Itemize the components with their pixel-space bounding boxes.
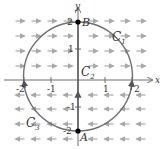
curve-c1-label: C1 <box>112 30 126 46</box>
vector-field-diagram: y x 2 1 -1 -2 -2 -1 1 2 B A C1 C2 C3 <box>0 0 164 149</box>
y-tick-1: 1 <box>68 44 74 54</box>
curve-c3 <box>24 22 78 131</box>
point-a-label: A <box>79 131 88 144</box>
x-tick-neg2: -2 <box>16 84 25 94</box>
point-b <box>75 19 80 24</box>
curve-c3-label: C3 <box>26 116 40 132</box>
axis-label-x: x <box>155 75 160 85</box>
curve-c2-label: C2 <box>81 65 95 81</box>
point-b-label: B <box>81 16 90 29</box>
axis-label-y: y <box>74 1 81 11</box>
x-tick-1: 1 <box>103 84 109 94</box>
y-tick-neg2: -2 <box>63 126 72 136</box>
x-tick-2: 2 <box>134 84 140 94</box>
y-tick-neg1: -1 <box>67 102 76 112</box>
y-tick-2: 2 <box>67 17 73 27</box>
x-tick-neg1: -1 <box>47 84 56 94</box>
